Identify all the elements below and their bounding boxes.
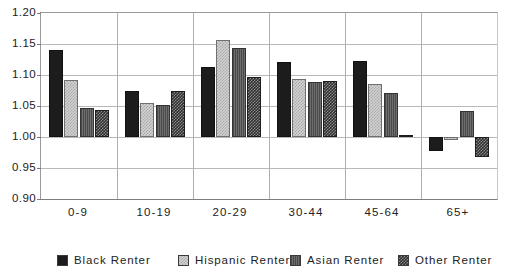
bar xyxy=(444,137,458,140)
bar xyxy=(95,110,109,137)
y-axis-tick-label: 1.10 xyxy=(0,68,36,80)
x-axis-tick-labels: 0-910-1920-2930-4445-6465+ xyxy=(40,206,498,228)
x-axis-tick-label: 0-9 xyxy=(68,206,88,218)
bar xyxy=(171,91,185,137)
y-axis-tick-mark xyxy=(37,168,41,169)
legend-label: Hispanic Renter xyxy=(195,254,290,266)
y-axis-tick-label: 1.15 xyxy=(0,37,36,49)
y-axis-tick-label: 0.95 xyxy=(0,161,36,173)
x-axis-tick-label: 10-19 xyxy=(137,206,172,218)
x-axis-tick-label: 65+ xyxy=(447,206,470,218)
bar xyxy=(216,40,230,137)
legend-swatch-icon xyxy=(398,255,409,266)
bar xyxy=(232,48,246,137)
bar xyxy=(156,105,170,137)
bar xyxy=(475,137,489,157)
bar xyxy=(80,108,94,137)
y-axis-tick-label: 1.20 xyxy=(0,6,36,18)
legend-swatch-icon xyxy=(178,255,189,266)
x-axis-tick-label: 20-29 xyxy=(213,206,248,218)
bar xyxy=(384,93,398,137)
plot-area xyxy=(40,12,498,200)
bar xyxy=(140,103,154,137)
bar xyxy=(49,50,63,137)
legend-swatch-icon xyxy=(290,255,301,266)
y-axis-tick-label: 1.00 xyxy=(0,130,36,142)
y-axis-tick-labels: 1.201.151.101.051.000.950.90 xyxy=(0,0,36,212)
bar xyxy=(323,81,337,137)
y-axis-tick-mark xyxy=(37,44,41,45)
x-axis-tick-label: 45-64 xyxy=(365,206,400,218)
x-axis-tick-label: 30-44 xyxy=(289,206,324,218)
bar xyxy=(277,62,291,137)
legend-item: Other Renter xyxy=(398,254,492,266)
legend-label: Other Renter xyxy=(415,254,492,266)
legend-label: Black Renter xyxy=(74,254,151,266)
y-axis-tick-mark xyxy=(37,199,41,200)
legend-item: Asian Renter xyxy=(290,254,384,266)
y-axis-tick-label: 0.90 xyxy=(0,192,36,204)
category-divider xyxy=(117,13,118,199)
category-divider xyxy=(421,13,422,199)
bar xyxy=(429,137,443,151)
bar xyxy=(460,111,474,137)
bar xyxy=(368,84,382,137)
y-axis-tick-mark xyxy=(37,13,41,14)
legend-item: Hispanic Renter xyxy=(178,254,290,266)
bar xyxy=(292,79,306,137)
bar xyxy=(353,61,367,137)
y-axis-tick-mark xyxy=(37,106,41,107)
y-axis-tick-mark xyxy=(37,137,41,138)
legend-swatch-icon xyxy=(57,255,68,266)
legend-item: Black Renter xyxy=(57,254,151,266)
bar-chart: 1.201.151.101.051.000.950.90 0-910-1920-… xyxy=(0,0,509,280)
bar xyxy=(64,80,78,137)
bar xyxy=(125,91,139,137)
bar xyxy=(247,77,261,137)
bar xyxy=(308,82,322,137)
bar xyxy=(201,67,215,137)
y-axis-tick-mark xyxy=(37,75,41,76)
chart-legend: Black RenterHispanic RenterAsian RenterO… xyxy=(0,254,509,276)
category-divider xyxy=(269,13,270,199)
legend-label: Asian Renter xyxy=(307,254,384,266)
category-divider xyxy=(193,13,194,199)
category-divider xyxy=(345,13,346,199)
bar xyxy=(399,135,413,137)
y-axis-tick-label: 1.05 xyxy=(0,99,36,111)
